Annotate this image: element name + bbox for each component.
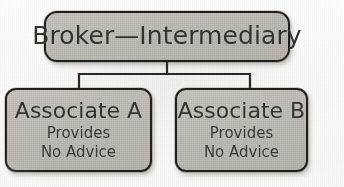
node-associate-b[interactable]: Associate B Provides No Advice (175, 88, 308, 172)
org-chart-figure: Broker—Intermediary Associate A Provides… (0, 0, 344, 187)
node-associate-b-line3: No Advice (204, 143, 279, 161)
node-associate-a-line2: Provides (47, 124, 110, 142)
node-associate-a-heading: Associate A (15, 99, 142, 123)
node-associate-a[interactable]: Associate A Provides No Advice (5, 88, 152, 172)
node-associate-a-line3: No Advice (41, 143, 116, 161)
node-broker-intermediary[interactable]: Broker—Intermediary (44, 11, 290, 62)
node-associate-b-line2: Provides (210, 124, 273, 142)
node-broker-intermediary-label: Broker—Intermediary (32, 23, 302, 49)
node-associate-b-heading: Associate B (178, 99, 305, 123)
